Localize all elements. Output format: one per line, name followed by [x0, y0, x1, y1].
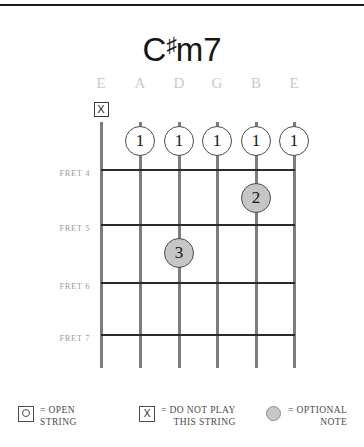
- legend-optional-line-2: NOTE: [288, 416, 347, 428]
- finger-marker-barre-g-4[interactable]: 1: [202, 126, 232, 156]
- fret-line-5: [101, 224, 295, 226]
- fretboard: FRET 4 FRET 5 FRET 6 FRET 7 X 1 1 1 1 1 …: [0, 0, 364, 447]
- legend-text-do-not-play: = DO NOT PLAY THIS STRING: [161, 404, 236, 428]
- do-not-play-icon: X: [139, 406, 155, 422]
- chord-diagram-page: C♯m7 E A D G B E FRET 4 FRET 5 FRET 6 FR…: [0, 0, 364, 447]
- legend-optional-line-1: = OPTIONAL: [288, 405, 347, 415]
- finger-marker-barre-b-4[interactable]: 1: [241, 126, 271, 156]
- string-2-a: [139, 122, 142, 368]
- legend-mute-line-2: THIS STRING: [161, 416, 236, 428]
- string-4-g: [216, 122, 219, 368]
- legend-mute-line-1: = DO NOT PLAY: [161, 405, 236, 415]
- legend-open-line-2: STRING: [40, 416, 77, 428]
- fret-line-6: [101, 282, 295, 284]
- open-string-icon: [18, 406, 34, 422]
- string-1-low-e: [100, 122, 103, 368]
- legend-text-open-string: = OPEN STRING: [40, 404, 77, 428]
- optional-note-icon: [266, 406, 281, 421]
- fret-label-5: FRET 5: [20, 223, 90, 233]
- mute-marker-string-1[interactable]: X: [94, 102, 109, 117]
- finger-marker-barre-high-e-4[interactable]: 1: [279, 126, 309, 156]
- fret-line-4: [101, 169, 295, 171]
- finger-marker-optional-d-6[interactable]: 3: [164, 238, 194, 268]
- legend-text-optional-note: = OPTIONAL NOTE: [288, 404, 347, 428]
- fret-label-4: FRET 4: [20, 168, 90, 178]
- string-5-b: [255, 122, 258, 368]
- finger-marker-barre-d-4[interactable]: 1: [164, 126, 194, 156]
- open-circle-icon: [22, 409, 30, 417]
- finger-marker-barre-a-4[interactable]: 1: [125, 126, 155, 156]
- legend: = OPEN STRING X = DO NOT PLAY THIS STRIN…: [0, 404, 364, 440]
- fret-label-7: FRET 7: [20, 333, 90, 343]
- legend-open-line-1: = OPEN: [40, 405, 75, 415]
- string-6-high-e: [293, 122, 296, 368]
- finger-marker-optional-b-5[interactable]: 2: [241, 183, 271, 213]
- fret-line-7: [101, 334, 295, 336]
- fret-label-6: FRET 6: [20, 281, 90, 291]
